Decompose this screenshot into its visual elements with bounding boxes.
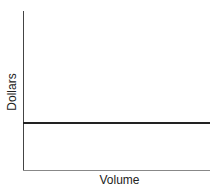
y-axis bbox=[23, 11, 24, 171]
y-axis-label: Dollars bbox=[5, 73, 19, 110]
horizontal-cost-line bbox=[23, 122, 210, 124]
x-axis bbox=[23, 170, 210, 171]
x-axis-label: Volume bbox=[0, 173, 219, 187]
